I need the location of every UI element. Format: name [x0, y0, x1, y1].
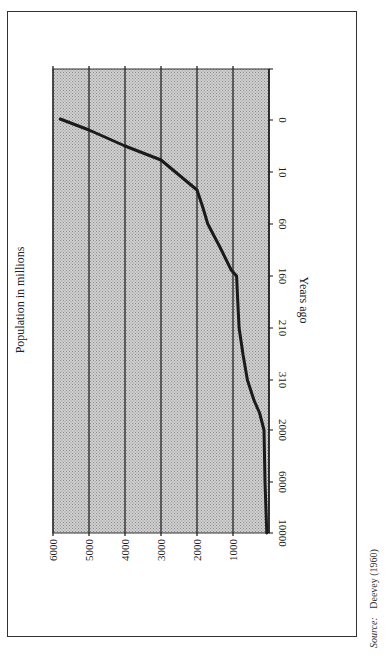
x-tick-label: 210: [277, 320, 289, 337]
x-axis: [269, 69, 273, 533]
y-tick-label: 5000: [83, 539, 95, 562]
x-tick-label: 160: [277, 268, 289, 285]
y-tick-label: 3000: [155, 539, 167, 562]
source-label: Source:: [368, 617, 379, 648]
x-tick-label: 10: [277, 167, 289, 179]
source-note: Source: Deevey (1960): [368, 549, 380, 648]
population-chart: 100020003000400050006000 010601602103102…: [0, 0, 389, 660]
x-axis-title: Years ago: [297, 276, 311, 323]
x-tick-label: 310: [277, 372, 289, 389]
svg-text:Source: Deevey (1960): Source: Deevey (1960): [368, 549, 380, 648]
y-tick-label: 6000: [47, 539, 59, 562]
x-axis-tick-labels: 010601602103102000600010000: [277, 117, 289, 547]
x-tick-label: 0: [277, 117, 289, 123]
x-tick-label: 2000: [277, 419, 289, 442]
y-tick-label: 2000: [191, 539, 203, 562]
x-tick-label: 6000: [277, 471, 289, 494]
y-axis-tick-labels: 100020003000400050006000: [47, 539, 239, 562]
x-tick-label: 10000: [277, 519, 289, 547]
y-axis-title: Population in millions: [13, 246, 27, 353]
y-tick-label: 4000: [119, 539, 131, 562]
x-tick-label: 60: [277, 219, 289, 231]
source-text: Deevey (1960): [368, 549, 380, 609]
y-tick-label: 1000: [227, 539, 239, 562]
